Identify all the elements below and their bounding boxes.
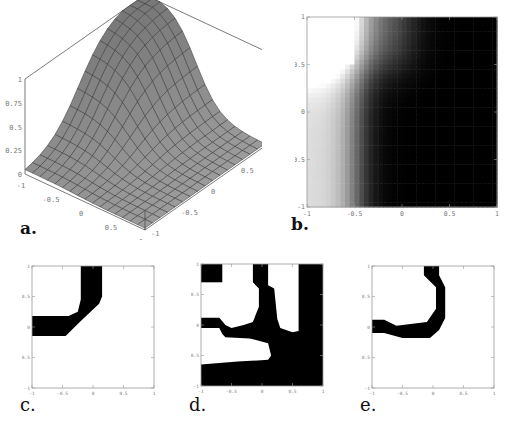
svg-text:0.5: 0.5 (444, 210, 456, 218)
svg-text:1: 1 (27, 264, 30, 269)
svg-text:0.5: 0.5 (241, 167, 254, 175)
svg-text:1: 1 (139, 238, 143, 240)
svg-text:-0.5: -0.5 (191, 353, 199, 358)
svg-text:1: 1 (322, 389, 325, 394)
svg-text:0.5: 0.5 (459, 391, 467, 396)
density-chart: -1-0.500.51-1-0.500.51 (295, 10, 505, 220)
region-plot-d: -1-0.500.51-1-0.500.51 (191, 256, 331, 398)
svg-text:-0.5: -0.5 (43, 196, 60, 204)
svg-text:0: 0 (432, 391, 435, 396)
region-plot-c: -1-0.500.51-1-0.500.51 (22, 258, 162, 400)
panel-label-e: e. (360, 394, 376, 415)
region-polygon (201, 264, 222, 282)
svg-text:0: 0 (211, 188, 215, 196)
svg-text:0: 0 (301, 108, 305, 116)
region-chart-d: -1-0.500.51-1-0.500.51 (191, 256, 331, 398)
svg-text:1: 1 (196, 262, 199, 267)
svg-text:1: 1 (301, 13, 305, 21)
region-plot-e: -1-0.500.51-1-0.500.51 (362, 258, 504, 400)
svg-text:-0.5: -0.5 (362, 355, 370, 360)
svg-text:-0.5: -0.5 (22, 355, 30, 360)
svg-text:-1: -1 (198, 389, 204, 394)
svg-text:0.5: 0.5 (295, 61, 305, 69)
svg-text:0: 0 (79, 210, 83, 218)
svg-text:1: 1 (18, 76, 22, 84)
svg-text:-1: -1 (151, 230, 159, 238)
region-chart-e: -1-0.500.51-1-0.500.51 (362, 258, 504, 400)
density-plot-b: -1-0.500.51-1-0.500.51 (295, 10, 505, 220)
svg-text:0: 0 (196, 323, 199, 328)
svg-text:0: 0 (367, 325, 370, 330)
region-polygon (32, 266, 102, 336)
svg-text:-1: -1 (17, 182, 25, 190)
svg-text:0.5: 0.5 (191, 292, 199, 297)
svg-text:0: 0 (400, 210, 404, 218)
panel-label-a: a. (20, 218, 37, 238)
svg-text:0.25: 0.25 (5, 147, 22, 155)
svg-text:-0.5: -0.5 (347, 210, 363, 218)
svg-text:-1: -1 (194, 384, 200, 389)
surface-3d-chart: 00.250.50.751-1-0.500.51-1-0.500.51 (0, 0, 262, 240)
region-chart-c: -1-0.500.51-1-0.500.51 (22, 258, 162, 400)
svg-text:0: 0 (27, 325, 30, 330)
svg-text:-1: -1 (365, 386, 371, 391)
svg-text:1: 1 (495, 210, 499, 218)
svg-text:0.75: 0.75 (5, 100, 22, 108)
panel-label-c: c. (20, 394, 36, 415)
svg-text:-0.5: -0.5 (57, 391, 68, 396)
svg-text:-1: -1 (25, 386, 31, 391)
svg-text:0.5: 0.5 (22, 294, 30, 299)
svg-text:0.5: 0.5 (362, 294, 370, 299)
svg-text:0.5: 0.5 (119, 391, 127, 396)
svg-text:0.5: 0.5 (288, 389, 296, 394)
svg-text:-0.5: -0.5 (226, 389, 237, 394)
svg-text:-0.5: -0.5 (295, 156, 305, 164)
panel-label-d: d. (189, 394, 206, 415)
svg-text:0: 0 (261, 389, 264, 394)
panel-label-b: b. (291, 214, 309, 234)
svg-text:1: 1 (367, 264, 370, 269)
svg-text:-0.5: -0.5 (397, 391, 408, 396)
svg-text:0.5: 0.5 (9, 124, 22, 132)
svg-text:-1: -1 (297, 203, 305, 211)
svg-text:0: 0 (18, 171, 22, 179)
surface-plot-a: 00.250.50.751-1-0.500.51-1-0.500.51 (0, 0, 262, 240)
svg-text:1: 1 (493, 391, 496, 396)
svg-text:1: 1 (153, 391, 156, 396)
svg-text:0.5: 0.5 (105, 224, 118, 232)
svg-text:-0.5: -0.5 (181, 209, 198, 217)
svg-text:0: 0 (92, 391, 95, 396)
region-polygon (372, 266, 445, 338)
